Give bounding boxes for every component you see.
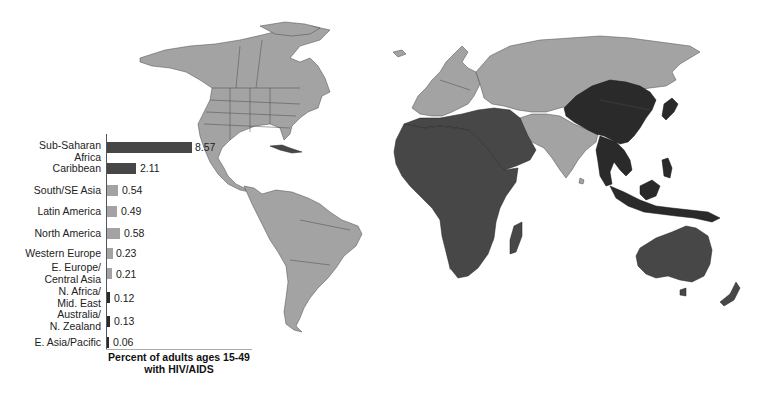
bar-value-caribbean: 2.11	[140, 162, 160, 174]
bar-value-north-america: 0.58	[124, 227, 144, 239]
bar-n-africa-mid-east	[107, 292, 110, 303]
label-line: Australia/	[0, 309, 101, 321]
hiv-prevalence-bar-chart: Sub-Saharan Africa 8.57 Caribbean 2.11 S…	[0, 0, 761, 396]
bar-australia-n-zealand	[107, 316, 110, 327]
bar-e-europe-central-asia	[107, 268, 112, 279]
bar-label-e-asia-pacific: E. Asia/Pacific	[0, 337, 101, 349]
bar-value-south-se-asia: 0.54	[122, 184, 142, 196]
label-line: South/SE Asia	[0, 185, 101, 197]
bar-label-sub-saharan-africa: Sub-Saharan Africa	[0, 140, 101, 163]
label-line: Caribbean	[0, 163, 101, 175]
x-axis-label: Percent of adults ages 15-49 with HIV/AI…	[103, 351, 255, 375]
bar-label-e-europe-central-asia: E. Europe/ Central Asia	[0, 262, 101, 285]
x-axis-label-line2: with HIV/AIDS	[103, 363, 255, 375]
bar-label-north-america: North America	[0, 228, 101, 240]
bar-label-caribbean: Caribbean	[0, 163, 101, 175]
bar-label-south-se-asia: South/SE Asia	[0, 185, 101, 197]
x-axis-label-line1: Percent of adults ages 15-49	[103, 351, 255, 363]
bar-latin-america	[107, 206, 117, 217]
bar-value-sub-saharan-africa: 8.57	[195, 141, 215, 153]
label-line: North America	[0, 228, 101, 240]
bar-value-australia-n-zealand: 0.13	[114, 315, 134, 327]
bar-value-latin-america: 0.49	[121, 205, 141, 217]
bar-value-e-europe-central-asia: 0.21	[116, 268, 136, 280]
bar-value-e-asia-pacific: 0.06	[113, 336, 133, 348]
bar-label-latin-america: Latin America	[0, 206, 101, 218]
label-line: E. Europe/	[0, 262, 101, 274]
x-axis-line	[106, 349, 252, 350]
bar-sub-saharan-africa	[107, 142, 192, 153]
label-line: N. Zealand	[0, 321, 101, 333]
bar-value-n-africa-mid-east: 0.12	[114, 292, 134, 304]
label-line: Western Europe	[0, 248, 101, 260]
bar-label-australia-n-zealand: Australia/ N. Zealand	[0, 309, 101, 332]
bar-value-western-europe: 0.23	[116, 247, 136, 259]
label-line: Latin America	[0, 206, 101, 218]
label-line: N. Africa/	[0, 286, 101, 298]
label-line: E. Asia/Pacific	[0, 337, 101, 349]
label-line: Sub-Saharan	[0, 140, 101, 152]
bar-label-western-europe: Western Europe	[0, 248, 101, 260]
bar-north-america	[107, 228, 120, 239]
bar-western-europe	[107, 248, 113, 259]
bar-caribbean	[107, 163, 136, 174]
bar-e-asia-pacific	[107, 337, 109, 348]
bar-label-n-africa-mid-east: N. Africa/ Mid. East	[0, 286, 101, 309]
bar-south-se-asia	[107, 185, 118, 196]
label-line: Central Asia	[0, 274, 101, 286]
